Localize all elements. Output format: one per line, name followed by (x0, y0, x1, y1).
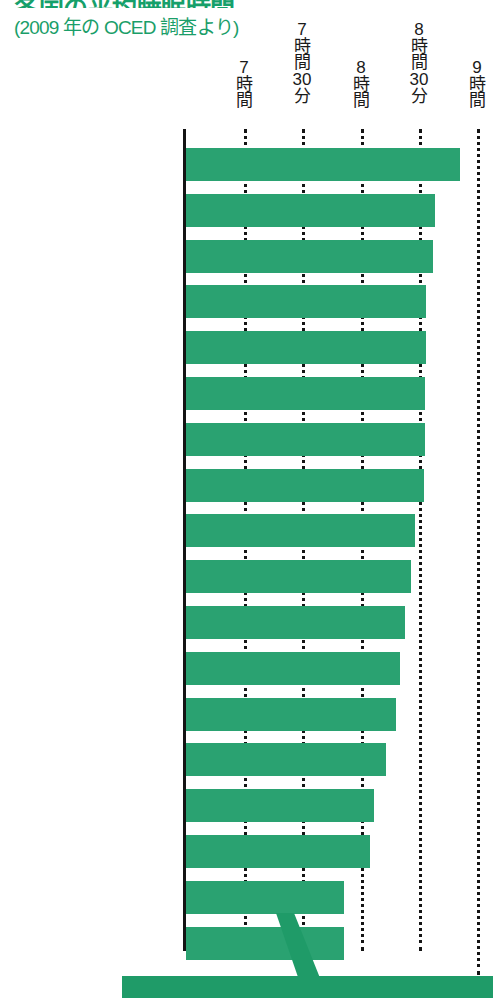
x-axis-tick-label: 7時間 (231, 60, 257, 110)
callout-banner (122, 976, 493, 998)
bar (186, 285, 426, 318)
x-axis-tick-label: 8時間30分 (406, 22, 432, 105)
plot-area: フランス米国スペインニュージーランドトルコオーストラリアカナダポーランドフィンラ… (186, 148, 493, 953)
chart-title: 各国の平均睡眠時間 (14, 0, 235, 8)
bar (186, 423, 425, 456)
bar (186, 789, 374, 822)
chart-subtitle: (2009 年の OCED 調査より) (14, 12, 238, 39)
bar (186, 698, 396, 731)
x-axis-tick-label: 9時間 (464, 60, 490, 110)
bar (186, 469, 424, 502)
bar (186, 652, 400, 685)
callout-arrow-icon (250, 913, 322, 983)
chart-root: 各国の平均睡眠時間 (2009 年の OCED 調査より) 7時間7時間30分8… (0, 0, 493, 998)
bar (186, 881, 344, 914)
bar (186, 377, 425, 410)
bar (186, 331, 426, 364)
x-axis-tick-label: 7時間30分 (289, 22, 315, 105)
bar (186, 606, 405, 639)
bar (186, 514, 415, 547)
bar (186, 835, 370, 868)
gridline (477, 129, 480, 975)
x-axis-tick-label: 8時間 (348, 60, 374, 110)
bar (186, 194, 435, 227)
bar (186, 743, 386, 776)
bar (186, 560, 411, 593)
bar (186, 240, 433, 273)
bar (186, 148, 460, 181)
